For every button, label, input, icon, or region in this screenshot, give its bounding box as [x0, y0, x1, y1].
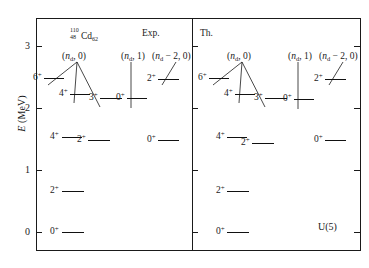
parity-sign: + [319, 72, 323, 80]
spin-parity-label: 2+ [314, 73, 323, 84]
spin-parity-label: 2+ [216, 185, 225, 196]
parity-sign: + [203, 71, 207, 79]
y-tick-label-3: 3 [16, 41, 30, 51]
y-tick-label-0: 0 [16, 227, 30, 237]
energy-level-bar [70, 94, 90, 95]
connector-exp-nd0-to-4plus [74, 62, 77, 103]
isotope-neutron-number: 62 [92, 36, 98, 42]
parity-sign: + [221, 184, 225, 192]
frame-bottom [36, 250, 361, 251]
parity-sign: + [221, 225, 225, 233]
symmetry-label-u5: U(5) [318, 222, 337, 232]
spin-parity-label: 2+ [241, 137, 250, 148]
parity-sign: + [121, 91, 125, 99]
isotope-mass-number: 110 [70, 27, 79, 33]
frame-right [360, 18, 361, 250]
energy-level-bar [62, 232, 84, 233]
panel-header-exp: Exp. [142, 29, 160, 39]
energy-level-bar [209, 78, 229, 79]
parity-sign: + [259, 91, 263, 99]
spin-parity-label: 0+ [314, 134, 323, 145]
energy-level-bar [227, 232, 249, 233]
isotope-numbers: 110 48 [70, 29, 81, 39]
parity-sign: + [94, 91, 98, 99]
parity-sign: + [152, 133, 156, 141]
isotope-label: 110 48 Cd62 [70, 29, 98, 42]
band-rest: , 1) [132, 51, 145, 61]
connector-th-nd0-to-6plus [213, 62, 242, 85]
parity-sign: + [319, 133, 323, 141]
band-rest: − 2, 0) [163, 51, 191, 61]
energy-level-bar [294, 99, 314, 100]
energy-level-bar [325, 140, 346, 141]
spin-parity-label: 4+ [216, 131, 225, 142]
frame-left-axis [36, 18, 37, 250]
spin-parity-label: 3+ [254, 92, 263, 103]
spin-parity-label: 0+ [147, 134, 156, 145]
parity-sign: + [38, 71, 42, 79]
band-label-exp-nd1: (nd, 1) [121, 52, 145, 63]
connector-th-ndm2-to-2plus [329, 62, 343, 85]
band-rest: , 1) [299, 51, 312, 61]
spin-parity-label: 6+ [33, 72, 42, 83]
panel-header-th: Th. [200, 29, 213, 39]
band-rest: , 0) [73, 51, 86, 61]
parity-sign: + [288, 92, 292, 100]
band-rest: − 2, 0) [330, 51, 358, 61]
spin-parity-label: 4+ [50, 131, 59, 142]
spin-parity-label: 0+ [50, 226, 59, 237]
isotope-atomic-number: 48 [70, 34, 76, 40]
isotope-symbol: Cd [81, 31, 92, 41]
spin-parity-label: 2+ [147, 73, 156, 84]
parity-sign: + [64, 87, 68, 95]
parity-sign: + [55, 225, 59, 233]
parity-sign: + [82, 133, 86, 141]
y-axis-symbol: E [16, 126, 27, 132]
connector-exp-nd0-to-6plus [48, 62, 77, 85]
spin-parity-label: 0+ [116, 92, 125, 103]
connector-exp-ndm2-to-2plus [162, 62, 176, 85]
energy-level-bar [325, 79, 346, 80]
band-label-th-nd1: (nd, 1) [288, 52, 312, 63]
energy-level-bar [235, 94, 255, 95]
y-tick-label-2: 2 [16, 103, 30, 113]
band-label-th-nd0: (nd, 0) [227, 52, 251, 63]
band-rest: , 0) [238, 51, 251, 61]
spin-parity-label: 2+ [77, 134, 86, 145]
energy-level-bar [127, 98, 147, 99]
energy-level-bar [88, 140, 110, 141]
energy-level-bar [252, 143, 274, 144]
parity-sign: + [55, 130, 59, 138]
y-tick-label-1: 1 [16, 165, 30, 175]
connector-th-nd0-to-4plus [239, 62, 242, 103]
energy-level-bar [62, 191, 84, 192]
spin-parity-label: 2+ [50, 185, 59, 196]
spin-parity-label: 4+ [59, 88, 68, 99]
y-axis-title: E (MeV) [16, 79, 27, 149]
spin-parity-label: 4+ [224, 88, 233, 99]
energy-level-bar [158, 140, 179, 141]
parity-sign: + [55, 184, 59, 192]
spin-parity-label: 3+ [89, 92, 98, 103]
panel-divider [192, 18, 193, 250]
parity-sign: + [246, 136, 250, 144]
spin-parity-label: 6+ [198, 72, 207, 83]
band-label-th-ndm2: (nd − 2, 0) [319, 52, 358, 63]
spin-parity-label: 0+ [283, 93, 292, 104]
parity-sign: + [229, 87, 233, 95]
spin-parity-label: 0+ [216, 226, 225, 237]
energy-level-bar [44, 78, 64, 79]
energy-level-bar [227, 191, 249, 192]
frame-top [36, 18, 361, 19]
energy-level-diagram: E (MeV) 0123 110 48 Cd62 Exp. Th. U(5) (… [0, 0, 369, 268]
band-label-exp-ndm2: (nd − 2, 0) [152, 52, 191, 63]
parity-sign: + [152, 72, 156, 80]
band-label-exp-nd0: (nd, 0) [62, 52, 86, 63]
energy-level-bar [158, 79, 179, 80]
parity-sign: + [221, 130, 225, 138]
